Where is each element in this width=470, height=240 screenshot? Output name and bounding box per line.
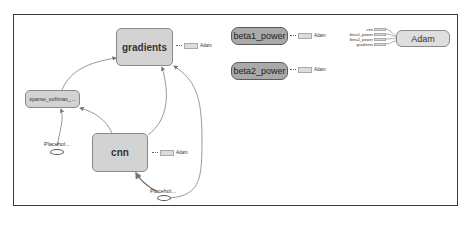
gradients-adam-aux[interactable]: Adam <box>176 43 212 49</box>
node-beta2-power-label: beta2_power <box>233 66 285 76</box>
beta2-adam-aux[interactable]: Adam <box>290 67 326 73</box>
cnn-adam-aux[interactable]: Adam <box>152 150 188 156</box>
aux-stub-icon <box>298 67 312 73</box>
aux-stub-icon <box>184 43 198 49</box>
adam-input-stub-icon[interactable] <box>374 38 386 41</box>
placeholder-bottom-label: Placehol... <box>150 188 176 194</box>
placeholder-left-label: Placehol... <box>44 141 70 147</box>
node-beta1-power-label: beta1_power <box>233 31 285 41</box>
aux-stub-icon <box>298 33 312 39</box>
aux-connector-icon <box>290 69 296 71</box>
aux-connector-icon <box>290 35 296 37</box>
adam-input-stub-icon[interactable] <box>374 28 386 31</box>
node-beta1-power[interactable]: beta1_power <box>231 27 288 45</box>
adam-input-stub-icon[interactable] <box>374 33 386 36</box>
node-sparse-softmax[interactable]: sparse_softmax_... <box>25 90 80 108</box>
placeholder-bottom-node[interactable] <box>157 195 171 201</box>
node-cnn-label: cnn <box>111 147 129 158</box>
node-gradients[interactable]: gradients <box>116 28 173 66</box>
node-adam-label: Adam <box>411 34 435 44</box>
node-beta2-power[interactable]: beta2_power <box>231 62 288 80</box>
adam-input-stub-icon[interactable] <box>374 43 386 46</box>
aux-connector-icon <box>152 152 158 154</box>
node-cnn[interactable]: cnn <box>92 133 148 172</box>
placeholder-left-node[interactable] <box>50 149 64 155</box>
aux-connector-icon <box>176 45 182 47</box>
node-sparse-softmax-label: sparse_softmax_... <box>29 96 75 102</box>
beta1-adam-aux[interactable]: Adam <box>290 33 326 39</box>
node-gradients-label: gradients <box>122 42 167 53</box>
aux-stub-icon <box>160 150 174 156</box>
adam-input-label: gradients <box>341 42 373 47</box>
node-adam[interactable]: Adam <box>396 30 450 47</box>
